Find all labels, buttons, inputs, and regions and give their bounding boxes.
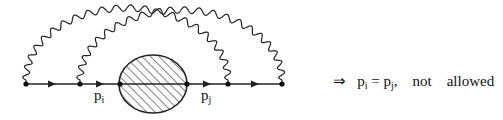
momentum-label-pj: pj (201, 87, 211, 105)
vertex-dot (77, 81, 82, 86)
pi-base: p (94, 87, 102, 103)
rhs-momentum: pj (384, 73, 394, 91)
lhs-base: p (357, 73, 365, 90)
pj-base: p (201, 87, 209, 103)
implies-arrow: ⇒ (333, 72, 346, 90)
pi-sub: i (102, 94, 105, 105)
vertex-dot (225, 81, 230, 86)
vertex-dot (184, 81, 189, 86)
rhs-base: p (384, 73, 392, 90)
momentum-label-pi: pi (94, 87, 104, 105)
caption-allowed: allowed (447, 73, 494, 90)
lhs-momentum: pi (357, 73, 367, 91)
feynman-diagram (0, 0, 320, 120)
equals-sign: = (368, 73, 384, 90)
caption-not: not (413, 73, 432, 90)
comma: , (394, 73, 398, 90)
caption: ⇒ pi = pj, not allowed (333, 72, 494, 91)
vertex-dot (279, 81, 284, 86)
pj-sub: j (209, 94, 212, 105)
hatched-blob (119, 55, 187, 113)
vertex-dot (117, 81, 122, 86)
arrow-icon (48, 81, 56, 88)
vertex-dot (23, 81, 28, 86)
arrow-icon (251, 81, 259, 88)
